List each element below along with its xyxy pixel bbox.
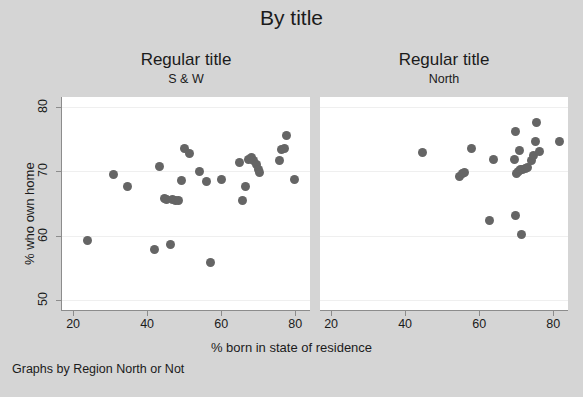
data-point [83,236,92,245]
y-axis-label: % who own home [22,162,37,265]
y-tick-label-50: 50 [36,286,50,312]
gridline-y-50 [320,300,568,301]
data-point [535,147,544,156]
x-tick-label-80: 80 [280,317,310,331]
x-tick-80 [553,311,554,316]
x-tick-label-20: 20 [58,317,88,331]
y-tick-label-60: 60 [36,222,50,248]
y-tick-60 [56,236,61,237]
y-tick-80 [56,107,61,108]
gridline-y-70 [320,171,568,172]
data-point [206,258,215,267]
data-point [255,168,264,177]
data-point [555,137,564,146]
panel-title-left: Regular title [62,50,310,69]
y-tick-50 [56,300,61,301]
figure-canvas: By title Regular title S & W Regular tit… [0,0,583,397]
data-point [155,162,164,171]
x-tick-80 [295,311,296,316]
data-point [282,131,291,140]
data-point [280,144,289,153]
x-tick-label-60: 60 [464,317,494,331]
data-point [202,177,211,186]
x-tick-label-40: 40 [132,317,162,331]
y-tick-label-80: 80 [36,93,50,119]
x-tick-label-20: 20 [316,317,346,331]
gridline-y-60 [62,236,310,237]
data-point [485,216,494,225]
data-point [235,158,244,167]
x-axis-line [320,310,568,311]
data-point [531,137,540,146]
y-axis-line [61,97,62,311]
x-tick-40 [147,311,148,316]
y-tick-70 [56,171,61,172]
scatter-plot-panel-right [320,97,568,310]
scatter-plot-panel-left [62,97,310,310]
x-tick-20 [331,311,332,316]
x-tick-label-60: 60 [206,317,236,331]
data-point [177,176,186,185]
data-point [241,182,250,191]
panel-title-right: Regular title [320,50,568,69]
data-point [275,156,284,165]
data-point [489,155,498,164]
x-axis-label: % born in state of residence [0,340,583,355]
data-point [515,146,524,155]
data-point [510,155,519,164]
data-point [460,168,469,177]
y-tick-label-70: 70 [36,157,50,183]
figure-title: By title [0,6,583,30]
x-tick-label-80: 80 [538,317,568,331]
data-point [195,167,204,176]
gridline-y-80 [320,107,568,108]
figure-caption: Graphs by Region North or Not [12,362,184,376]
data-point [123,182,132,191]
panel-subtitle-left: S & W [62,72,310,86]
x-tick-60 [221,311,222,316]
x-tick-40 [405,311,406,316]
data-point [150,245,159,254]
data-point [174,196,183,205]
data-point [532,118,541,127]
data-point [185,149,194,158]
x-tick-20 [73,311,74,316]
gridline-y-60 [320,236,568,237]
data-point [467,144,476,153]
data-point [290,175,299,184]
data-point [418,148,427,157]
x-axis-line [62,310,310,311]
data-point [217,175,226,184]
gridline-y-50 [62,300,310,301]
data-point [511,127,520,136]
x-tick-60 [479,311,480,316]
x-tick-label-40: 40 [390,317,420,331]
panel-subtitle-right: North [320,72,568,86]
gridline-y-70 [62,171,310,172]
gridline-y-80 [62,107,310,108]
data-point [166,240,175,249]
data-point [517,230,526,239]
data-point [109,170,118,179]
data-point [238,196,247,205]
data-point [511,211,520,220]
